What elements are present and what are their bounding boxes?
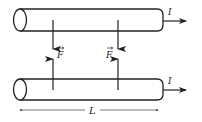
top-wire bbox=[14, 9, 164, 31]
svg-text:F: F bbox=[56, 50, 64, 60]
parallel-wires-diagram: I I F F L bbox=[0, 0, 202, 122]
dimension-end-dot bbox=[156, 109, 158, 111]
bottom-wire-end-ellipse bbox=[14, 79, 27, 100]
dimension-start-dot bbox=[20, 109, 22, 111]
bottom-wire bbox=[14, 79, 164, 100]
right-force-label: F bbox=[105, 47, 113, 60]
svg-text:F: F bbox=[105, 50, 113, 60]
left-force-label: F bbox=[56, 47, 64, 60]
top-wire-end-ellipse bbox=[14, 9, 27, 31]
length-label: L bbox=[88, 105, 96, 116]
bottom-current-label: I bbox=[167, 76, 172, 86]
top-current-label: I bbox=[167, 7, 172, 17]
